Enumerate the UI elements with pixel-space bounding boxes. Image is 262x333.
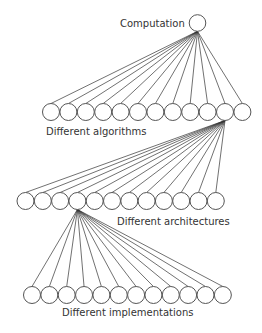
level-2-node xyxy=(162,287,179,304)
level-0-node xyxy=(43,104,60,121)
level-0-node xyxy=(112,104,129,121)
level-2-node xyxy=(214,287,231,304)
tree-edge xyxy=(103,31,197,103)
level-1-node xyxy=(190,193,207,210)
level-label-architectures: Different architectures xyxy=(117,216,230,227)
level-0-node xyxy=(147,104,164,121)
level-label-implementations: Different implementations xyxy=(62,307,193,318)
tree-edge xyxy=(68,31,197,103)
level-2-node xyxy=(41,287,58,304)
level-0-node xyxy=(199,104,216,121)
edges-layer xyxy=(26,31,243,286)
level-label-algorithms: Different algorithms xyxy=(46,126,146,137)
level-2-node xyxy=(197,287,214,304)
level-0-node xyxy=(234,104,251,121)
tree-edge xyxy=(49,210,77,287)
level-0-node xyxy=(95,104,112,121)
level-1-node xyxy=(69,193,86,210)
tree-edge xyxy=(67,210,78,287)
tree-edge xyxy=(32,210,77,287)
root-label-computation: Computation xyxy=(120,18,185,29)
tree-edge xyxy=(121,31,198,103)
level-0-node xyxy=(60,104,77,121)
level-1-node xyxy=(34,193,51,210)
level-1-node xyxy=(52,193,69,210)
level-2-node xyxy=(93,287,110,304)
level-0-node xyxy=(217,104,234,121)
nodes-layer xyxy=(17,15,251,304)
tree-edge xyxy=(147,121,225,193)
level-2-node xyxy=(145,287,162,304)
tree-edge xyxy=(216,121,225,193)
tree-edge xyxy=(198,31,226,103)
level-2-node xyxy=(58,287,75,304)
tree-edge xyxy=(198,31,208,103)
level-0-node xyxy=(130,104,147,121)
level-0-node xyxy=(164,104,181,121)
level-1-node xyxy=(104,193,121,210)
level-2-node xyxy=(110,287,127,304)
level-1-node xyxy=(207,193,224,210)
tree-edge xyxy=(86,31,198,103)
root-node xyxy=(189,15,206,32)
hierarchy-diagram: Computation Different algorithms Differe… xyxy=(0,0,262,333)
tree-edge xyxy=(138,31,198,103)
level-1-node xyxy=(17,193,34,210)
level-2-node xyxy=(128,287,145,304)
level-0-node xyxy=(77,104,94,121)
tree-edge xyxy=(51,31,198,103)
level-1-node xyxy=(86,193,103,210)
level-1-node xyxy=(138,193,155,210)
tree-edge xyxy=(198,31,243,103)
level-1-node xyxy=(121,193,138,210)
level-1-node xyxy=(173,193,190,210)
level-0-node xyxy=(182,104,199,121)
level-1-node xyxy=(155,193,172,210)
level-2-node xyxy=(180,287,197,304)
level-2-node xyxy=(76,287,93,304)
level-2-node xyxy=(24,287,41,304)
